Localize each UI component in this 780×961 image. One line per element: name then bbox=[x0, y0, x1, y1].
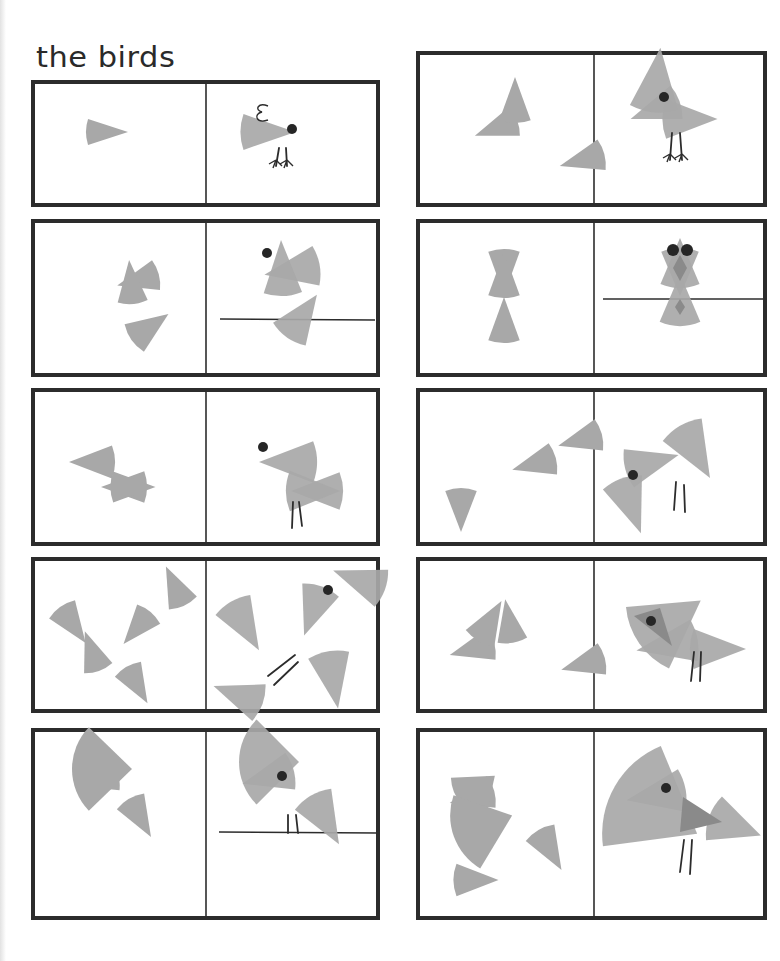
bird-leg bbox=[680, 840, 684, 872]
wedge-piece bbox=[115, 662, 148, 703]
bird-wedge bbox=[295, 789, 339, 844]
wedge-piece bbox=[86, 119, 128, 145]
bird-wedge bbox=[240, 114, 295, 150]
loose-pieces bbox=[488, 249, 519, 343]
loose-pieces bbox=[445, 419, 603, 532]
bird-eye bbox=[661, 783, 671, 793]
panel-8-dark-eye-patch bbox=[418, 559, 765, 711]
bird-leg bbox=[690, 840, 692, 874]
panel-frame bbox=[418, 221, 765, 375]
bird-leg bbox=[274, 662, 298, 685]
loose-pieces bbox=[49, 567, 197, 704]
bird-leg bbox=[268, 655, 295, 676]
panel-1-tiny-chick bbox=[33, 82, 378, 205]
wedge-piece bbox=[49, 600, 85, 643]
loose-pieces bbox=[450, 776, 562, 896]
panel-6-tall-tail bbox=[418, 390, 765, 544]
wedge-piece bbox=[69, 446, 115, 479]
bird-panels-illustration bbox=[0, 0, 780, 961]
bird-eye bbox=[258, 442, 268, 452]
bird-wedge bbox=[215, 595, 259, 650]
loose-pieces bbox=[72, 727, 151, 837]
bird-wedge bbox=[214, 684, 266, 721]
wedge-piece bbox=[512, 443, 557, 474]
bird-wedge bbox=[624, 449, 679, 487]
bird-eye bbox=[262, 248, 272, 258]
loose-pieces bbox=[69, 446, 156, 503]
bird-wedge bbox=[662, 99, 717, 138]
bird-leg bbox=[700, 652, 701, 681]
bird-wedge bbox=[308, 651, 349, 709]
wedge-piece bbox=[166, 567, 197, 610]
loose-pieces bbox=[450, 599, 606, 674]
bird-eye bbox=[681, 244, 693, 256]
bird-leg bbox=[674, 482, 676, 510]
bird-wedge bbox=[302, 583, 339, 635]
bird-eye bbox=[628, 470, 638, 480]
assembled-bird bbox=[258, 441, 343, 528]
wedge-piece bbox=[454, 864, 499, 896]
bird-eye bbox=[646, 616, 656, 626]
assembled-bird bbox=[603, 238, 766, 326]
wedge-piece bbox=[125, 314, 169, 352]
wedge-piece bbox=[124, 604, 161, 644]
bird-leg bbox=[296, 815, 298, 833]
assembled-bird bbox=[602, 746, 761, 874]
bird-leg bbox=[684, 485, 685, 512]
wedge-piece bbox=[117, 794, 151, 837]
panel-2-three-wedges bbox=[418, 48, 765, 205]
assembled-bird bbox=[626, 600, 746, 681]
panel-9-big-beak-perch bbox=[33, 720, 378, 918]
wedge-piece bbox=[450, 795, 512, 868]
bird-eye bbox=[667, 244, 679, 256]
wedge-piece bbox=[84, 631, 112, 673]
loose-pieces bbox=[475, 77, 606, 170]
panel-7-flying bbox=[33, 559, 388, 721]
bird-wedge bbox=[690, 629, 746, 669]
bird-leg bbox=[292, 502, 293, 528]
panel-frame bbox=[418, 559, 765, 711]
wedge-piece bbox=[561, 643, 606, 674]
panel-10-big-bird bbox=[418, 730, 765, 918]
panel-frame bbox=[418, 53, 765, 205]
wedge-piece bbox=[560, 140, 606, 170]
bird-eye bbox=[277, 771, 287, 781]
assembled-bird bbox=[214, 570, 389, 721]
panel-4-owl bbox=[418, 221, 766, 375]
assembled-bird bbox=[220, 240, 375, 345]
assembled-bird bbox=[219, 720, 378, 845]
bird-wedge bbox=[239, 720, 299, 805]
panel-3-perching bbox=[33, 221, 378, 375]
wedge-piece bbox=[498, 599, 528, 643]
bird-eye bbox=[659, 92, 669, 102]
loose-pieces bbox=[117, 260, 168, 352]
bird-eye bbox=[323, 585, 333, 595]
bird-wedge bbox=[663, 419, 710, 478]
panel-5-bow-tie bbox=[33, 390, 378, 544]
wedge-piece bbox=[445, 488, 477, 532]
wedge-piece bbox=[558, 419, 603, 450]
panel-frame bbox=[418, 390, 765, 544]
assembled-bird bbox=[630, 48, 718, 162]
assembled-bird bbox=[603, 419, 710, 534]
bird-eye bbox=[287, 124, 297, 134]
head-feather-curl bbox=[257, 105, 268, 121]
wedge-piece bbox=[72, 727, 132, 810]
assembled-bird bbox=[240, 105, 297, 168]
loose-pieces bbox=[86, 119, 128, 145]
bird-wedge bbox=[273, 295, 317, 346]
wedge-piece bbox=[526, 824, 562, 869]
wedge-piece bbox=[488, 297, 519, 343]
wedge-piece bbox=[499, 77, 530, 123]
